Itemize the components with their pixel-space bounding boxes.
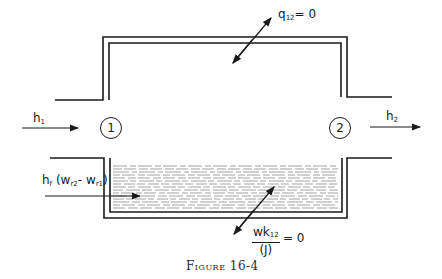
heat-transfer-label: q12= 0	[278, 8, 316, 22]
bottom-outer-wall	[50, 158, 392, 218]
work-arrow-out	[234, 210, 254, 234]
figure-caption: Figure 16-4	[186, 259, 259, 273]
work-denominator: (J)	[259, 243, 272, 257]
work-equals-zero: = 0	[283, 232, 305, 244]
state-1-marker: 1	[100, 117, 122, 139]
control-volume-diagram	[0, 0, 442, 279]
work-label: wk12 (J)	[252, 226, 280, 257]
liquid-inflow-label: hf (wr2- wr1)	[42, 174, 108, 188]
work-numerator: wk12	[252, 226, 280, 243]
inlet-enthalpy-label: h1	[33, 112, 45, 126]
outlet-enthalpy-label: h2	[386, 110, 398, 124]
state-2-marker: 2	[329, 117, 351, 139]
liquid-pool	[113, 166, 338, 208]
top-inner-wall	[109, 43, 341, 100]
flow-arrows	[22, 18, 420, 234]
